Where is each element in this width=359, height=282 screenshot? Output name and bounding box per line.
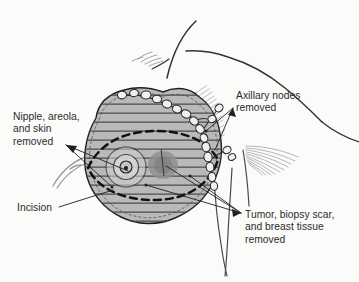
label-line-2: and skin <box>13 123 52 134</box>
nipple-areola-skin-label: Nipple, areola,and skinremoved <box>13 111 80 148</box>
incision-label: Incision <box>17 202 52 214</box>
pectoral-muscle-fibers <box>246 146 298 175</box>
label-line-3: removed <box>245 234 285 245</box>
label-line-2: and breast tissue <box>245 221 324 232</box>
mastectomy-illustration: Nipple, areola,and skinremoved Axillary … <box>0 0 359 282</box>
label-line-1: Nipple, areola, <box>13 111 80 122</box>
label-line-1: Incision <box>17 202 52 213</box>
label-line-2: removed <box>236 102 276 113</box>
label-line-3: removed <box>13 136 53 147</box>
nipple-areola <box>106 147 146 187</box>
shoulder-hatch-marks <box>132 52 163 66</box>
label-line-1: Tumor, biopsy scar, <box>245 209 334 220</box>
tumor-biopsy-breast-tissue-label: Tumor, biopsy scar,and breast tissueremo… <box>245 209 334 246</box>
label-line-1: Axillary nodes <box>236 90 300 101</box>
axillary-nodes-label: Axillary nodesremoved <box>236 90 300 115</box>
